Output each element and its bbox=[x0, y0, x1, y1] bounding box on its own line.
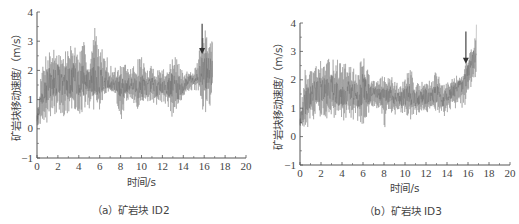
velocity-chart-id3: −10123402468101214161820时间/s矿岩块移动速度/（m/s… bbox=[260, 0, 519, 224]
x-tick-label: 14 bbox=[178, 160, 190, 172]
x-tick-label: 0 bbox=[34, 160, 40, 172]
y-axis-title: 矿岩块移动速度/（m/s） bbox=[10, 29, 22, 142]
y-tick-label: 2 bbox=[28, 64, 34, 76]
x-tick-label: 16 bbox=[199, 160, 211, 172]
x-tick-label: 8 bbox=[118, 160, 124, 172]
x-tick-label: 2 bbox=[318, 167, 324, 179]
chart-panel-b: −10123402468101214161820时间/s矿岩块移动速度/（m/s… bbox=[260, 0, 519, 224]
x-tick-label: 20 bbox=[241, 160, 253, 172]
y-tick-label: 1 bbox=[291, 102, 297, 114]
x-tick-label: 12 bbox=[421, 167, 432, 179]
velocity-signal-line bbox=[300, 25, 476, 127]
x-tick-label: 2 bbox=[55, 160, 61, 172]
x-tick-label: 0 bbox=[297, 167, 303, 179]
y-axis-title: 矿岩块移动速度/（m/s） bbox=[272, 38, 284, 151]
x-tick-label: 18 bbox=[484, 167, 496, 179]
y-tick-label: 4 bbox=[28, 6, 34, 18]
y-tick-label: 0 bbox=[28, 122, 34, 134]
x-tick-label: 10 bbox=[400, 167, 412, 179]
x-tick-label: 18 bbox=[220, 160, 232, 172]
y-tick-label: −1 bbox=[284, 159, 296, 171]
caption-b: （b）矿岩块 ID3 bbox=[364, 203, 442, 218]
x-tick-label: 4 bbox=[339, 167, 345, 179]
y-tick-label: 1 bbox=[28, 93, 34, 105]
velocity-chart-id2: −10123402468101214161820时间/s矿岩块移动速度/（m/s… bbox=[0, 0, 260, 224]
x-tick-label: 20 bbox=[505, 167, 517, 179]
y-tick-label: −1 bbox=[21, 152, 33, 164]
x-tick-label: 14 bbox=[442, 167, 454, 179]
chart-panel-a: −10123402468101214161820时间/s矿岩块移动速度/（m/s… bbox=[0, 0, 260, 224]
x-tick-label: 16 bbox=[463, 167, 475, 179]
x-tick-label: 4 bbox=[76, 160, 82, 172]
x-tick-label: 6 bbox=[360, 167, 366, 179]
y-tick-label: 3 bbox=[291, 45, 297, 57]
y-tick-label: 3 bbox=[28, 35, 34, 47]
arrow-down-icon bbox=[463, 58, 469, 64]
y-tick-label: 0 bbox=[291, 130, 297, 142]
velocity-signal-line bbox=[37, 28, 213, 125]
x-tick-label: 8 bbox=[381, 167, 387, 179]
y-tick-label: 4 bbox=[291, 17, 297, 29]
x-tick-label: 6 bbox=[97, 160, 103, 172]
x-axis-title: 时间/s bbox=[390, 182, 419, 194]
y-tick-label: 2 bbox=[291, 73, 297, 85]
caption-a: （a）矿岩块 ID2 bbox=[92, 202, 170, 217]
x-axis-title: 时间/s bbox=[127, 176, 156, 188]
x-tick-label: 12 bbox=[157, 160, 168, 172]
x-tick-label: 10 bbox=[136, 160, 148, 172]
